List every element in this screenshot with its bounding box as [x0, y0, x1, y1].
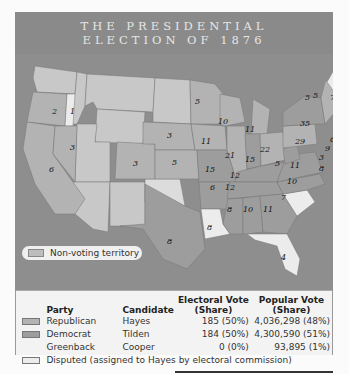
results-table: Party Candidate Electoral Vote(Share) Po… — [20, 295, 332, 367]
svg-text:5: 5 — [275, 159, 280, 168]
header-popular: Popular Vote(Share) — [251, 295, 332, 315]
non-voting-label: Non-voting territory — [50, 248, 139, 258]
state-oregon — [27, 92, 67, 126]
header-candidate: Candidate — [120, 295, 176, 315]
electoral-vote: 185 (50%) — [176, 315, 251, 328]
svg-text:15: 15 — [205, 165, 215, 174]
svg-text:5: 5 — [195, 97, 200, 106]
candidate-name: Tilden — [120, 328, 176, 341]
svg-text:21: 21 — [224, 151, 235, 160]
svg-text:3: 3 — [133, 159, 138, 168]
svg-text:12: 12 — [230, 171, 240, 180]
svg-text:11: 11 — [245, 125, 255, 134]
svg-text:22: 22 — [259, 145, 270, 154]
svg-text:8: 8 — [227, 205, 232, 214]
svg-text:29: 29 — [294, 137, 305, 146]
svg-text:3: 3 — [167, 131, 172, 140]
svg-text:9: 9 — [325, 144, 330, 153]
svg-text:1: 1 — [70, 107, 75, 116]
popular-vote: 4,036,298 (48%) — [251, 315, 332, 328]
title-line-2: ELECTION OF 1876 — [15, 33, 333, 47]
svg-text:11: 11 — [263, 205, 273, 214]
svg-text:10: 10 — [218, 117, 228, 126]
candidate-name: Hayes — [120, 315, 176, 328]
svg-text:5: 5 — [305, 93, 310, 102]
svg-text:35: 35 — [300, 119, 310, 128]
header-row: Party Candidate Electoral Vote(Share) Po… — [20, 295, 332, 315]
results-legend: Party Candidate Electoral Vote(Share) Po… — [16, 290, 332, 355]
svg-text:3: 3 — [70, 143, 75, 152]
party-name: Greenback — [44, 341, 120, 354]
territory-montana — [85, 74, 155, 112]
table-row: Republican Hayes 185 (50%) 4,036,298 (48… — [20, 315, 332, 328]
svg-text:10: 10 — [287, 177, 297, 186]
state-alabama — [243, 196, 263, 234]
table-row: Democrat Tilden 184 (50%) 4,300,590 (51%… — [20, 328, 332, 341]
democrat-swatch — [22, 331, 40, 338]
map-title: THE PRESIDENTIAL ELECTION OF 1876 — [15, 12, 333, 54]
party-name: Republican — [44, 315, 120, 328]
popular-vote: 93,895 (1%) — [251, 341, 332, 354]
non-voting-legend: Non-voting territory — [22, 246, 142, 260]
svg-text:4: 4 — [280, 253, 286, 262]
non-voting-swatch — [28, 249, 44, 257]
svg-text:8: 8 — [207, 223, 212, 232]
svg-text:8: 8 — [319, 164, 324, 173]
svg-text:3: 3 — [319, 153, 324, 162]
svg-text:15: 15 — [245, 155, 255, 164]
svg-text:10: 10 — [243, 205, 253, 214]
svg-text:5: 5 — [172, 158, 177, 167]
title-line-1: THE PRESIDENTIAL — [15, 19, 333, 33]
candidate-name: Cooper — [120, 341, 176, 354]
electoral-vote: 184 (50%) — [176, 328, 251, 341]
electoral-vote: 0 (0%) — [176, 341, 251, 354]
header-party: Party — [44, 295, 120, 315]
bottom-rule — [175, 371, 333, 373]
disputed-label: Disputed (assigned to Hayes by electoral… — [44, 354, 332, 367]
svg-text:6: 6 — [210, 183, 215, 192]
disputed-swatch — [22, 357, 40, 364]
territory-dakota — [153, 78, 191, 124]
svg-text:6: 6 — [330, 135, 333, 144]
territory-new-mexico — [110, 182, 145, 226]
svg-text:11: 11 — [290, 161, 300, 170]
svg-text:12: 12 — [225, 183, 235, 192]
svg-text:6: 6 — [49, 165, 54, 174]
republican-swatch — [22, 318, 40, 325]
disputed-row: Disputed (assigned to Hayes by electoral… — [20, 354, 332, 367]
territory-wyoming — [95, 109, 145, 144]
table-row: Greenback Cooper 0 (0%) 93,895 (1%) — [20, 341, 332, 354]
svg-text:11: 11 — [201, 137, 211, 146]
party-name: Democrat — [44, 328, 120, 341]
popular-vote: 4,300,590 (51%) — [251, 328, 332, 341]
svg-text:5: 5 — [313, 91, 318, 100]
svg-text:2: 2 — [51, 107, 57, 116]
svg-text:7: 7 — [330, 93, 333, 102]
header-electoral: Electoral Vote(Share) — [176, 295, 251, 315]
svg-text:8: 8 — [167, 237, 172, 246]
